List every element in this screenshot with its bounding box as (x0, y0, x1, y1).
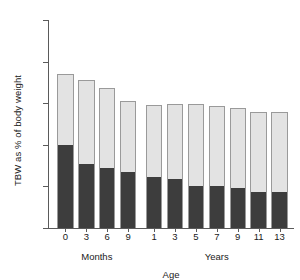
bar-segment-extracellular (99, 88, 115, 168)
bar-segment-intracellular (99, 168, 115, 228)
y-axis-line (48, 20, 49, 228)
x-axis-tick-label: 9 (118, 232, 138, 242)
x-axis-tick-label: 0 (55, 232, 75, 242)
x-axis-tick-label: 3 (76, 232, 96, 242)
bar-segment-extracellular (120, 101, 136, 172)
x-axis-tick-label: 7 (207, 232, 227, 242)
bar (250, 112, 266, 228)
bar (209, 106, 225, 228)
bar (188, 104, 204, 228)
bar (99, 88, 115, 228)
bar-segment-extracellular (250, 112, 266, 192)
bar-segment-intracellular (209, 186, 225, 228)
bar (167, 104, 183, 228)
x-axis-tick-label: 13 (270, 232, 290, 242)
x-axis-title: Age (48, 269, 294, 280)
bar-segment-intracellular (271, 192, 287, 228)
y-axis-tick (43, 186, 48, 187)
bar (57, 74, 73, 228)
bar (230, 108, 246, 228)
y-axis-title: TBW as % of body weight (12, 46, 23, 216)
bar-segment-intracellular (250, 192, 266, 228)
bar-segment-intracellular (78, 164, 94, 228)
bar-segment-extracellular (230, 108, 246, 188)
x-axis-tick-label: 5 (186, 232, 206, 242)
bar-segment-intracellular (230, 188, 246, 228)
y-axis-tick (43, 20, 48, 21)
x-axis-tick-label: 6 (97, 232, 117, 242)
x-axis-tick-label: 11 (249, 232, 269, 242)
plot-area: 020406080100 0369135791113 MonthsYears A… (48, 20, 294, 228)
y-axis-tick (43, 62, 48, 63)
bar (120, 101, 136, 228)
bar (271, 112, 287, 228)
x-axis-line (48, 228, 294, 229)
bar (78, 80, 94, 228)
bar-segment-intracellular (167, 179, 183, 228)
bar-segment-intracellular (57, 145, 73, 228)
y-axis-tick (43, 103, 48, 104)
bar-segment-intracellular (120, 172, 136, 228)
bar (146, 105, 162, 228)
bar-segment-extracellular (188, 104, 204, 186)
x-axis-group-label: Years (187, 251, 247, 262)
bar-segment-extracellular (271, 112, 287, 192)
y-axis-tick (43, 228, 48, 229)
bar-segment-intracellular (146, 177, 162, 228)
x-axis-tick-label: 1 (144, 232, 164, 242)
x-axis-tick-label: 3 (165, 232, 185, 242)
y-axis-tick (43, 145, 48, 146)
bar-segment-intracellular (188, 186, 204, 228)
x-axis-group-label: Months (67, 251, 127, 262)
bar-segment-extracellular (78, 80, 94, 163)
x-axis-tick-label: 9 (228, 232, 248, 242)
bar-segment-extracellular (167, 104, 183, 179)
bar-segment-extracellular (146, 105, 162, 177)
bar-segment-extracellular (209, 106, 225, 186)
bar-segment-extracellular (57, 74, 73, 145)
